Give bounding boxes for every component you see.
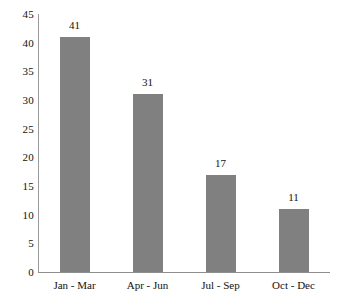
bar — [60, 37, 90, 272]
bar-slot: 17 — [184, 14, 257, 272]
y-axis-tick-label: 30 — [2, 95, 34, 106]
bar-value-label: 17 — [215, 158, 226, 169]
x-axis-line — [38, 272, 330, 273]
y-axis-tick-labels: 454035302520151050 — [0, 0, 34, 308]
y-axis-tick-label: 5 — [2, 238, 34, 249]
bar — [133, 94, 163, 272]
bar — [206, 175, 236, 272]
x-axis-category-label: Jul - Sep — [201, 279, 240, 291]
y-axis-tick-label: 0 — [2, 267, 34, 278]
bar-chart: 454035302520151050 41311711 Jan - MarApr… — [0, 0, 351, 308]
plot-area: 41311711 — [38, 14, 330, 272]
y-axis-tick-label: 10 — [2, 209, 34, 220]
bar-slot: 11 — [257, 14, 330, 272]
bar-value-label: 31 — [142, 77, 153, 88]
bar-value-label: 11 — [288, 192, 299, 203]
bar-value-label: 41 — [69, 20, 80, 31]
y-axis-tick-label: 25 — [2, 123, 34, 134]
bar-slot: 41 — [38, 14, 111, 272]
x-axis-category-label: Jan - Mar — [53, 279, 95, 291]
y-axis-tick-label: 45 — [2, 9, 34, 20]
x-axis-category-labels: Jan - MarApr - JunJul - SepOct - Dec — [38, 279, 330, 299]
y-axis-tick-label: 40 — [2, 37, 34, 48]
x-axis-category-label: Apr - Jun — [127, 279, 169, 291]
y-axis-tick-label: 15 — [2, 181, 34, 192]
bar-slot: 31 — [111, 14, 184, 272]
bar — [279, 209, 309, 272]
x-axis-category-label: Oct - Dec — [272, 279, 315, 291]
y-axis-tick-label: 20 — [2, 152, 34, 163]
y-axis-tick-label: 35 — [2, 66, 34, 77]
